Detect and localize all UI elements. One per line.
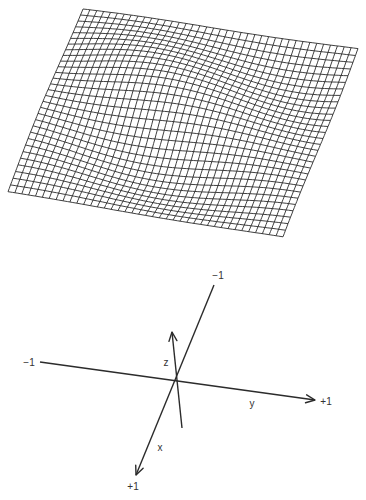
figure: −1 +1 y −1 +1 x z [0,0,366,500]
wireframe-surface [8,9,358,237]
axes-diagram [40,285,315,475]
y-axis-name-label: y [250,399,255,409]
x-axis-name-label: x [158,443,163,453]
figure-canvas [0,0,366,500]
y-axis-negative-label: −1 [23,358,34,368]
z-axis-name-label: z [164,358,169,368]
x-axis-negative-label: −1 [212,271,223,281]
mesh-grid-lines [8,9,358,237]
y-axis-positive-label: +1 [320,397,331,407]
x-axis-line [136,285,214,475]
x-axis-positive-label: +1 [127,482,138,492]
